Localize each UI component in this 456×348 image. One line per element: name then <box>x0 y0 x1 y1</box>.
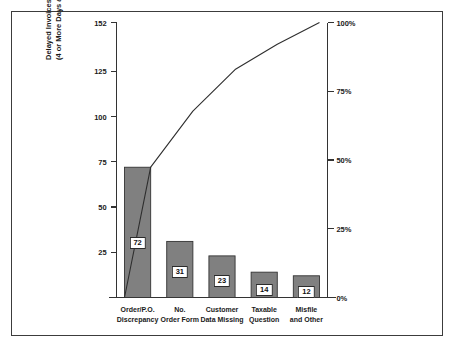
y-axis-title: Delayed Invoices (4 or More Days after P… <box>44 0 64 60</box>
secondary-y-axis-tick-label: 50% <box>337 156 352 165</box>
y-axis-tick-label: 50 <box>81 203 107 212</box>
bar-value-label: 23 <box>214 275 230 287</box>
chart-plot-area <box>0 0 456 348</box>
secondary-y-axis-tick-label: 75% <box>337 87 352 96</box>
y-axis-tick-label: 152 <box>81 18 107 27</box>
secondary-y-axis-tick-label: 100% <box>337 18 356 27</box>
y-axis-title-line2: (4 or More Days after P.O. Received) <box>54 0 64 60</box>
y-axis-tick-label: 75 <box>81 157 107 166</box>
x-axis-category-label: TaxableQuestion <box>249 305 279 324</box>
x-axis-category-label: Misfileand Other <box>290 305 323 324</box>
x-axis-category-label: No.Order Form <box>161 305 200 324</box>
y-axis-title-line1: Delayed Invoices <box>44 0 53 60</box>
secondary-y-axis-tick-label: 25% <box>337 224 352 233</box>
x-axis-category-label: CustomerData Missing <box>200 305 243 324</box>
pareto-chart-figure: Delayed Invoices (4 or More Days after P… <box>0 0 456 348</box>
y-axis-tick-label: 100 <box>81 112 107 121</box>
x-axis-category-label-line: No. <box>161 305 200 315</box>
bar-value-label: 12 <box>298 286 314 298</box>
x-axis-category-label: Order/P.O.Discrepancy <box>117 305 159 324</box>
secondary-y-axis-tick-label: 0% <box>337 293 348 302</box>
y-axis-tick-label: 125 <box>81 67 107 76</box>
x-axis-category-label-line: Order/P.O. <box>117 305 159 315</box>
x-axis-category-label-line: Taxable <box>249 305 279 315</box>
bar-value-label: 72 <box>129 237 145 249</box>
x-axis-category-label-line: Discrepancy <box>117 315 159 325</box>
bar-value-label: 14 <box>256 284 272 296</box>
x-axis-category-label-line: Data Missing <box>200 315 243 325</box>
y-axis-tick-label: 25 <box>81 248 107 257</box>
x-axis-category-label-line: and Other <box>290 315 323 325</box>
bar-value-label: 31 <box>172 266 188 278</box>
x-axis-category-label-line: Customer <box>200 305 243 315</box>
x-axis-category-label-line: Question <box>249 315 279 325</box>
x-axis-category-label-line: Order Form <box>161 315 200 325</box>
x-axis-category-label-line: Misfile <box>290 305 323 315</box>
